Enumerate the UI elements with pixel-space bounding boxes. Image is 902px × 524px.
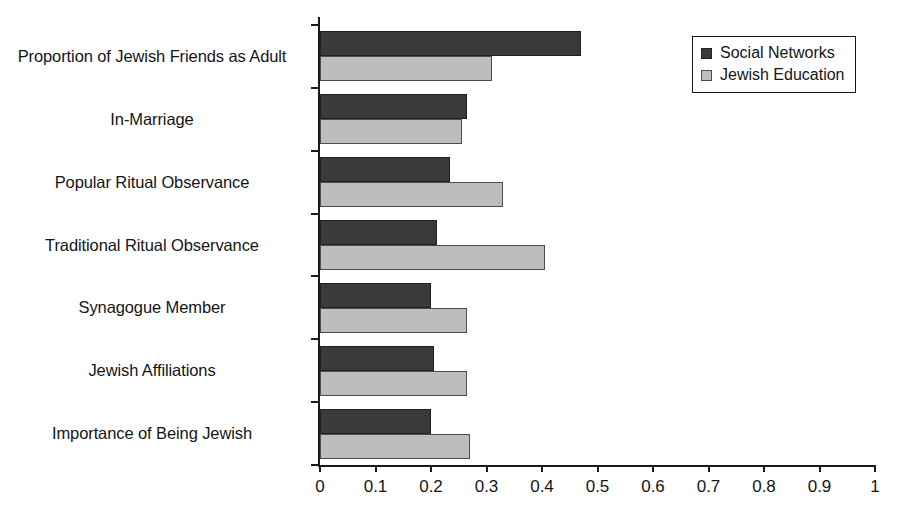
bar [320,56,492,81]
category-label: In-Marriage [2,110,302,129]
legend-label: Jewish Education [720,66,845,84]
x-axis-tick-label: 0.6 [623,477,683,497]
bar [320,346,434,371]
category-label: Synagogue Member [2,298,302,317]
x-axis-tick-label: 0 [290,477,350,497]
y-axis-tick [311,150,319,152]
bar [320,220,437,245]
y-axis-tick [311,464,319,466]
bar [320,371,467,396]
x-axis-tick-label: 0.1 [346,477,406,497]
y-axis-tick [311,338,319,340]
category-label: Popular Ritual Observance [2,173,302,192]
bar [320,182,503,207]
x-axis-tick [597,465,599,472]
x-axis-tick-label: 0.9 [790,477,850,497]
bar-chart: Proportion of Jewish Friends as AdultIn-… [0,0,902,524]
y-axis-tick [311,213,319,215]
x-axis-tick [763,465,765,472]
x-axis-tick [319,465,321,472]
bar [320,119,462,144]
y-axis-tick [311,275,319,277]
category-label: Importance of Being Jewish [2,424,302,443]
bar [320,245,545,270]
legend-swatch-icon [701,70,712,81]
legend-label: Social Networks [720,44,835,62]
x-axis-tick-label: 0.4 [512,477,572,497]
x-axis-tick-label: 0.5 [568,477,628,497]
x-axis-tick [708,465,710,472]
x-axis-tick [652,465,654,472]
category-label: Traditional Ritual Observance [2,236,302,255]
bar [320,157,450,182]
bar [320,434,470,459]
x-axis-tick-label: 0.8 [734,477,794,497]
y-axis-tick [311,401,319,403]
legend-item: Jewish Education [701,64,845,86]
y-axis-tick [311,24,319,26]
x-axis-tick [874,465,876,472]
x-axis-tick [541,465,543,472]
x-axis-tick-label: 1 [845,477,902,497]
x-axis-tick-label: 0.2 [401,477,461,497]
x-axis-tick-label: 0.7 [679,477,739,497]
x-axis-tick [819,465,821,472]
y-axis-tick [311,87,319,89]
bar [320,409,431,434]
x-axis-tick-label: 0.3 [457,477,517,497]
category-axis: Proportion of Jewish Friends as AdultIn-… [4,25,312,465]
bar [320,308,467,333]
bar [320,31,581,56]
chart-legend: Social NetworksJewish Education [692,36,856,93]
bar [320,283,431,308]
x-axis-tick [430,465,432,472]
category-label: Jewish Affiliations [2,361,302,380]
bar [320,94,467,119]
legend-swatch-icon [701,48,712,59]
legend-item: Social Networks [701,42,845,64]
category-label: Proportion of Jewish Friends as Adult [2,47,302,66]
x-axis-tick [375,465,377,472]
x-axis-tick [486,465,488,472]
